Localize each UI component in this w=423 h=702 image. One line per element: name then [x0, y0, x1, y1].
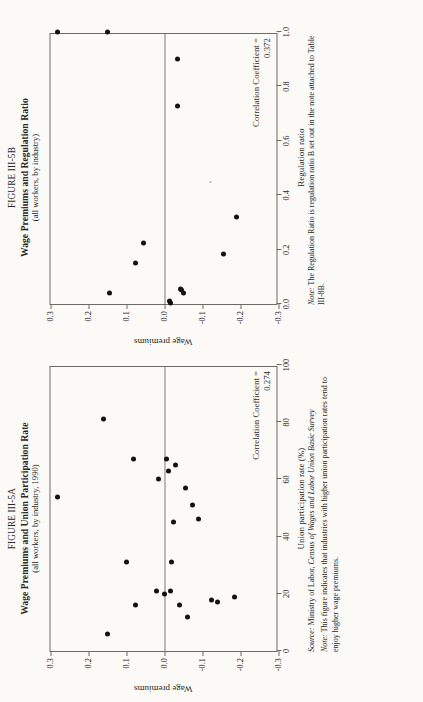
- figure-a-source: Source: Ministry of Labor, Census of Wag…: [306, 360, 316, 652]
- x-axis-tick-label: 40: [281, 532, 290, 540]
- data-point: [167, 588, 172, 593]
- data-point: [196, 517, 201, 522]
- x-axis-tick: [276, 86, 281, 87]
- figure-panel-a: FIGURE III-5A Wage Premiums and Union Pa…: [6, 345, 419, 692]
- data-point: [161, 591, 166, 596]
- y-axis-tick: [88, 651, 89, 656]
- y-axis-tick: [50, 304, 51, 309]
- y-axis-tick-label: -0.3: [273, 311, 282, 324]
- y-axis-tick-label: -0.3: [273, 658, 282, 671]
- x-axis-tick-label: 20: [281, 590, 290, 598]
- y-axis-tick-label: 0.1: [121, 658, 130, 668]
- figure-a-correlation-value: 0.274: [261, 371, 271, 391]
- data-point: [209, 597, 214, 602]
- figure-a-y-axis-title: Wage premiums: [134, 684, 193, 694]
- data-point: [55, 494, 60, 499]
- x-axis-tick-label: 1.0: [281, 27, 290, 37]
- data-point: [133, 261, 138, 266]
- x-axis-tick: [276, 364, 281, 365]
- y-axis-tick: [126, 304, 127, 309]
- figure-a-correlation: Correlation Coefficient = 0.274: [250, 371, 272, 460]
- data-point: [232, 594, 237, 599]
- y-axis-tick: [202, 304, 203, 309]
- y-axis-tick-label: 0.3: [45, 658, 54, 668]
- y-axis-tick-label: -0.2: [235, 311, 244, 324]
- figure-b-x-axis-title: Regulation ratio: [295, 128, 305, 186]
- x-axis-tick-label: 0.4: [281, 190, 290, 200]
- figure-a-header: FIGURE III-5A Wage Premiums and Union Pa…: [6, 345, 40, 692]
- x-axis-tick: [276, 303, 281, 304]
- figure-b-note-text: The Regulation Ratio is regulation ratio…: [306, 36, 325, 306]
- figure-a-subtitle: (all workers, by industry, 1990): [30, 345, 40, 692]
- figure-b-number: FIGURE III-5B: [6, 10, 17, 345]
- x-axis-tick-label: 0: [281, 649, 290, 653]
- y-axis-tick: [126, 651, 127, 656]
- y-axis-tick: [50, 651, 51, 656]
- x-axis-tick: [276, 650, 281, 651]
- y-axis-tick-label: 0.2: [83, 311, 92, 321]
- y-axis-tick: [164, 304, 165, 309]
- y-axis-tick-label: -0.1: [197, 311, 206, 324]
- figure-b-subtitle: (all workers, by industry): [30, 10, 40, 345]
- x-axis-tick-label: 100: [281, 359, 290, 372]
- y-axis-tick-label: -0.1: [197, 658, 206, 671]
- y-axis-tick-label: 0.3: [45, 311, 54, 321]
- data-point: [123, 560, 128, 565]
- figure-b-correlation: Correlation Coefficient = 0.372: [250, 38, 272, 127]
- figure-a-title: Wage Premiums and Union Participation Ra…: [18, 345, 29, 692]
- figure-b-y-axis-title: Wage premiums: [134, 337, 193, 347]
- data-point: [177, 287, 182, 292]
- figure-b-plot-frame: 0.30.20.10.0-0.1-0.2-0.3 0.00.20.40.60.8…: [49, 33, 277, 305]
- data-point: [190, 503, 195, 508]
- y-axis-tick: [278, 304, 279, 309]
- figure-a-plot-area: 0.30.20.10.0-0.1-0.2-0.3 020406080100 Co…: [49, 345, 277, 692]
- figure-a-zero-line: [164, 367, 165, 651]
- data-point: [182, 485, 187, 490]
- data-point: [55, 30, 60, 35]
- figure-b-zero-line: [164, 34, 165, 304]
- figure-b-footnotes: Note: The Regulation Ratio is regulation…: [306, 25, 330, 305]
- x-axis-tick-label: 0.0: [281, 299, 290, 309]
- data-point: [131, 457, 136, 462]
- figure-b-header: FIGURE III-5B Wage Premiums and Regulati…: [6, 10, 40, 345]
- data-point: [175, 57, 180, 62]
- figure-a-source-publication: Census of Wages and Labor Union Basic Su…: [306, 409, 315, 564]
- figure-b-correlation-label: Correlation Coefficient =: [250, 38, 260, 127]
- data-point: [175, 103, 180, 108]
- data-point: [163, 457, 168, 462]
- data-point: [169, 560, 174, 565]
- x-axis-tick-label: 80: [281, 418, 290, 426]
- x-axis-tick-label: 0.6: [281, 136, 290, 146]
- data-point: [171, 520, 176, 525]
- x-axis-tick: [276, 593, 281, 594]
- data-point: [101, 417, 106, 422]
- figure-a-plot-frame: 0.30.20.10.0-0.1-0.2-0.3 020406080100 Co…: [49, 366, 277, 652]
- x-axis-tick-label: 0.8: [281, 81, 290, 91]
- figure-a-note-label: Note:: [319, 634, 328, 652]
- x-axis-tick: [276, 249, 281, 250]
- x-axis-tick: [276, 421, 281, 422]
- figure-a-x-axis-title: Union participation rate (%): [295, 448, 305, 550]
- figure-b-correlation-value: 0.372: [261, 38, 271, 58]
- figure-a-correlation-label: Correlation Coefficient =: [250, 371, 260, 460]
- figure-a-note: Note: This figure indicates that industr…: [319, 360, 340, 652]
- x-axis-tick: [276, 536, 281, 537]
- data-point: [106, 291, 111, 296]
- y-axis-tick-label: -0.2: [235, 658, 244, 671]
- y-axis-tick: [88, 304, 89, 309]
- scanned-page: FIGURE III-5A Wage Premiums and Union Pa…: [0, 0, 423, 702]
- data-point: [140, 240, 145, 245]
- figure-a-source-text: Ministry of Labor,: [306, 566, 315, 625]
- x-axis-tick-label: 60: [281, 475, 290, 483]
- data-point: [156, 477, 161, 482]
- figure-a-footnotes: Source: Ministry of Labor, Census of Wag…: [306, 360, 343, 652]
- y-axis-tick-label: 0.0: [159, 658, 168, 668]
- figure-panel-b: FIGURE III-5B Wage Premiums and Regulati…: [6, 10, 419, 345]
- y-axis-tick-label: 0.0: [159, 311, 168, 321]
- figure-b-note-label: Note:: [306, 287, 315, 305]
- x-axis-tick: [276, 194, 281, 195]
- data-point: [173, 463, 178, 468]
- figure-a-number: FIGURE III-5A: [6, 345, 17, 692]
- figure-a-note-text: This figure indicates that industries wi…: [319, 377, 338, 652]
- y-axis-tick: [202, 651, 203, 656]
